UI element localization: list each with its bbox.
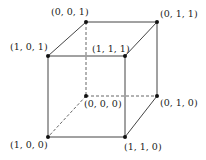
vertex-label: (1, 0, 0) — [10, 139, 48, 150]
vertex-label: (0, 0, 0) — [84, 98, 122, 109]
vertex-label: (1, 1, 1) — [92, 43, 130, 54]
vertex-label: (0, 1, 0) — [160, 97, 198, 108]
vertex-point — [155, 20, 159, 24]
cube-edge — [125, 96, 157, 137]
cube-edge — [48, 22, 86, 56]
vertex-point — [123, 135, 127, 139]
unit-cube-diagram: (0, 0, 1)(0, 1, 1)(1, 0, 1)(1, 1, 1)(0, … — [0, 0, 206, 160]
vertex-point — [123, 54, 127, 58]
cube-edge — [125, 22, 157, 56]
vertex-label: (1, 1, 0) — [124, 141, 162, 152]
hidden-edge — [48, 96, 86, 137]
vertex-point — [155, 94, 159, 98]
vertex-label: (1, 0, 1) — [10, 41, 48, 52]
vertex-label: (0, 0, 1) — [51, 6, 89, 17]
vertex-label: (0, 1, 1) — [160, 8, 198, 19]
vertex-point — [84, 20, 88, 24]
vertex-labels: (0, 0, 1)(0, 1, 1)(1, 0, 1)(1, 1, 1)(0, … — [10, 6, 198, 152]
vertex-point — [46, 54, 50, 58]
